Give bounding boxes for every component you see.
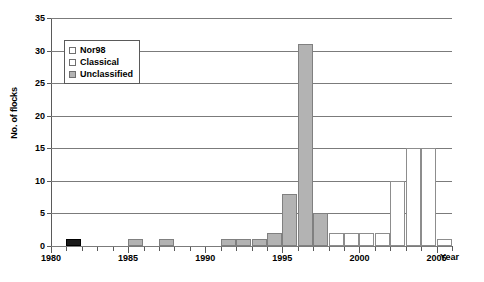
legend-item-classical: Classical	[69, 56, 133, 68]
legend-swatch-classical-icon	[69, 59, 76, 66]
x-tick-mark-1987	[159, 247, 160, 251]
y-axis-ticks: 05101520253035	[0, 0, 45, 282]
x-tick-label-1995: 1995	[262, 253, 302, 263]
x-tick-label-1985: 1985	[108, 253, 148, 263]
bar-2003-nor98	[406, 148, 421, 246]
bar-1997-unclassified	[313, 213, 328, 246]
x-tick-mark-1992	[236, 247, 237, 251]
bar-1993-unclassified	[252, 239, 267, 246]
bar-1994-unclassified	[267, 233, 282, 246]
bar-1991-unclassified	[221, 239, 236, 246]
x-tick-mark-1999	[344, 247, 345, 251]
x-tick-label-1990: 1990	[185, 253, 225, 263]
x-tick-mark-2002	[390, 247, 391, 251]
y-tick-label-20: 20	[19, 112, 45, 121]
x-tick-mark-1996	[298, 247, 299, 251]
y-tick-label-0: 0	[19, 242, 45, 251]
bar-1992-unclassified	[236, 239, 251, 246]
bar-1998-nor98	[329, 233, 344, 246]
y-tick-label-10: 10	[19, 177, 45, 186]
x-tick-mark-2001	[375, 247, 376, 251]
legend-label-classical: Classical	[80, 57, 119, 67]
y-tick-label-5: 5	[19, 209, 45, 218]
y-tick-label-35: 35	[19, 14, 45, 23]
gridline-20	[51, 116, 452, 117]
x-tick-mark-1982	[82, 247, 83, 251]
x-tick-mark-1993	[252, 247, 253, 251]
x-tick-mark-1983	[97, 247, 98, 251]
x-tick-mark-1988	[174, 247, 175, 251]
x-tick-mark-1989	[190, 247, 191, 251]
x-tick-mark-2006	[452, 247, 453, 251]
x-tick-mark-1984	[113, 247, 114, 251]
bar-1995-unclassified	[282, 194, 297, 246]
x-tick-label-2005: 2005	[417, 253, 457, 263]
legend-label-unclassified: Unclassified	[80, 69, 133, 79]
x-tick-mark-2003	[406, 247, 407, 251]
y-tick-label-30: 30	[19, 47, 45, 56]
bar-2001-nor98	[375, 233, 390, 246]
bar-2004-nor98	[421, 148, 436, 246]
x-tick-mark-1998	[329, 247, 330, 251]
legend-label-nor98: Nor98	[80, 45, 106, 55]
bar-1981-classical	[66, 239, 81, 246]
legend-swatch-unclassified-icon	[69, 71, 76, 78]
x-tick-label-2000: 2000	[339, 253, 379, 263]
x-tick-mark-1986	[144, 247, 145, 251]
chart-legend: Nor98ClassicalUnclassified	[64, 40, 140, 84]
x-tick-mark-1981	[66, 247, 67, 251]
bar-2002-nor98	[390, 181, 405, 246]
gridline-35	[51, 18, 452, 19]
bar-1996-unclassified	[298, 44, 313, 246]
legend-item-nor98: Nor98	[69, 44, 133, 56]
x-tick-label-1980: 1980	[31, 253, 71, 263]
bar-1999-nor98	[344, 233, 359, 246]
x-tick-mark-2004	[421, 247, 422, 251]
bar-2005-nor98	[437, 239, 452, 246]
x-tick-mark-1997	[313, 247, 314, 251]
bar-1985-unclassified	[128, 239, 143, 246]
legend-swatch-nor98-icon	[69, 47, 76, 54]
gridline-15	[51, 148, 452, 149]
legend-item-unclassified: Unclassified	[69, 68, 133, 80]
scrapie-flocks-bar-chart: No. of flocks Year 05101520253035 198019…	[0, 0, 484, 282]
y-tick-label-25: 25	[19, 79, 45, 88]
y-tick-label-15: 15	[19, 144, 45, 153]
bar-1987-unclassified	[159, 239, 174, 246]
x-tick-mark-1994	[267, 247, 268, 251]
bar-2000-nor98	[359, 233, 374, 246]
x-tick-mark-1991	[221, 247, 222, 251]
